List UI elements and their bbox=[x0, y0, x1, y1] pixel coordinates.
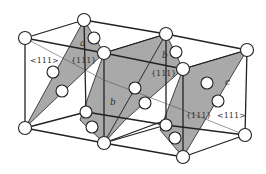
label-miller-plane-2: {111} bbox=[151, 69, 176, 78]
atom bbox=[169, 132, 181, 144]
atom bbox=[177, 151, 190, 164]
atom bbox=[19, 32, 32, 45]
label-direction-right: <111> bbox=[217, 111, 246, 120]
atom bbox=[47, 66, 59, 78]
atom bbox=[241, 44, 254, 57]
atom bbox=[201, 77, 213, 89]
atom bbox=[80, 106, 92, 118]
atom bbox=[98, 137, 111, 150]
atom bbox=[177, 63, 190, 76]
atom bbox=[88, 32, 100, 44]
atom bbox=[170, 46, 182, 58]
label-miller-plane-1: {111} bbox=[71, 56, 96, 65]
label-miller-plane-3: {111} bbox=[186, 111, 211, 120]
label-plane-a: a bbox=[80, 38, 85, 48]
atom bbox=[98, 47, 111, 60]
atom bbox=[86, 121, 98, 133]
atom bbox=[239, 129, 252, 142]
label-plane-b-top: b bbox=[162, 50, 168, 60]
label-plane-c: c bbox=[225, 77, 230, 87]
atom bbox=[56, 85, 68, 97]
atom bbox=[160, 28, 173, 41]
atom bbox=[212, 95, 224, 107]
atom bbox=[78, 14, 91, 27]
label-direction-left: <111> bbox=[30, 56, 59, 65]
label-plane-b-bottom: b bbox=[110, 97, 116, 107]
atom bbox=[19, 122, 32, 135]
atom bbox=[139, 97, 151, 109]
crystal-lattice-diagram: a b b c {111} {111} {111} <111> <111> bbox=[0, 0, 266, 174]
atom bbox=[160, 119, 172, 131]
atom bbox=[129, 82, 141, 94]
